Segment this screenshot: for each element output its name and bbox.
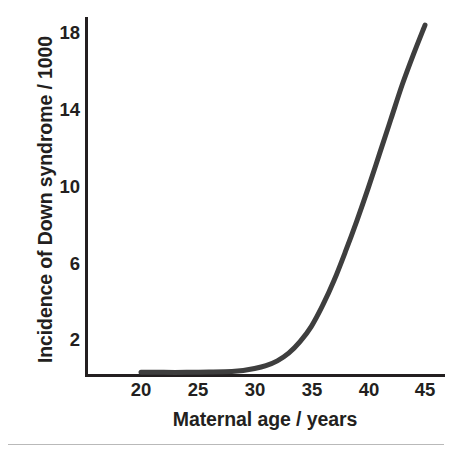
x-tick-label: 30: [230, 381, 280, 400]
x-tick-label: 35: [287, 381, 337, 400]
x-axis-tick-labels: 20 25 30 35 40 45: [0, 381, 451, 405]
footer-divider: [8, 444, 444, 445]
x-tick-label: 40: [344, 381, 394, 400]
x-tick-label: 45: [400, 381, 450, 400]
chart-figure: Incidence of Down syndrome / 1000 18 14 …: [0, 0, 451, 461]
data-series-line: [141, 25, 425, 372]
x-axis-title: Maternal age / years: [86, 408, 444, 431]
x-tick-label: 20: [116, 381, 166, 400]
x-tick-label: 25: [173, 381, 223, 400]
